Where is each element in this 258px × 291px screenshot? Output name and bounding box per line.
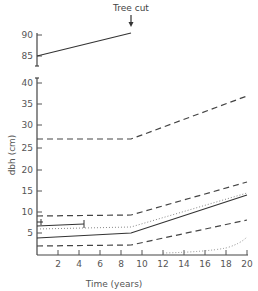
x-tick-2: 2 <box>55 259 61 269</box>
y-tick-30: 30 <box>22 120 34 130</box>
y-tick-40: 40 <box>22 78 34 88</box>
y-tick-90: 90 <box>22 30 34 40</box>
x-tick-12: 12 <box>157 259 168 269</box>
y-ticks-lower <box>37 83 42 233</box>
y-tick-85: 85 <box>22 51 33 61</box>
y-axis-title: dbh (cm) <box>7 135 17 176</box>
series-large-tree <box>37 33 131 56</box>
x-tick-20: 20 <box>241 259 253 269</box>
x-tick-10: 10 <box>136 259 148 269</box>
series-short-solid <box>37 224 84 226</box>
y-tick-5: 5 <box>27 228 33 238</box>
x-tick-18: 18 <box>220 259 232 269</box>
y-tick-25: 25 <box>22 143 33 153</box>
series-solid-mean <box>37 195 247 238</box>
tree-cut-arrow-icon <box>129 15 134 27</box>
x-tick-14: 14 <box>178 259 190 269</box>
x-tick-4: 4 <box>76 259 82 269</box>
tree-cut-label: Tree cut <box>112 3 149 13</box>
x-ticks <box>58 250 247 255</box>
dbh-growth-chart: 90 85 40 35 30 25 20 15 10 5 2 4 6 8 10 … <box>0 0 258 291</box>
y-tick-20: 20 <box>22 165 34 175</box>
y-ticks-upper <box>37 35 42 56</box>
x-tick-8: 8 <box>118 259 124 269</box>
series-upper-dashed-band <box>37 182 247 216</box>
x-axis-title: Time (years) <box>85 279 143 289</box>
y-tick-10: 10 <box>22 207 34 217</box>
y-tick-35: 35 <box>22 99 33 109</box>
series-dotted-mean <box>37 193 247 229</box>
x-tick-6: 6 <box>97 259 103 269</box>
series-upper-dashed-large <box>37 96 247 139</box>
y-tick-15: 15 <box>22 186 33 196</box>
x-tick-16: 16 <box>199 259 211 269</box>
